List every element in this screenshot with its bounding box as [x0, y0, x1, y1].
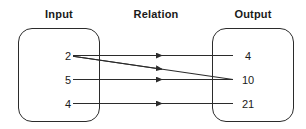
arrow-2-to-10 — [73, 56, 233, 79]
mapping-diagram: Input Relation Output 2 5 4 4 10 21 — [0, 0, 306, 129]
relation-arrows — [0, 0, 306, 129]
